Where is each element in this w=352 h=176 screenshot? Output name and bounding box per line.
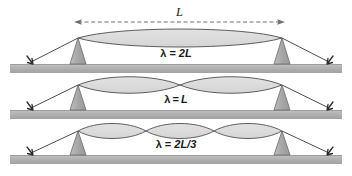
- wavelength-value-1: 2L: [178, 47, 192, 59]
- lambda-symbol-3: λ: [156, 138, 162, 150]
- equals-symbol-1: =: [169, 47, 175, 59]
- wavelength-label-harmonic-3: λ=2L/3: [156, 138, 197, 150]
- standing-wave-figure: L λ=2L: [0, 0, 352, 176]
- lambda-symbol-2: λ: [164, 93, 170, 105]
- figure-canvas: L λ=2L: [0, 0, 352, 176]
- lambda-symbol-1: λ: [160, 47, 166, 59]
- equals-symbol-3: =: [165, 138, 171, 150]
- base-bar: [10, 64, 342, 73]
- base-bar: [10, 110, 342, 119]
- wavelength-value-2: L: [181, 93, 188, 105]
- base-bar: [10, 155, 342, 164]
- wavelength-label-harmonic-2: λ=L: [164, 93, 188, 105]
- equals-symbol-2: =: [172, 93, 178, 105]
- dimension-label-L: L: [175, 5, 183, 19]
- wavelength-value-3: 2L/3: [173, 138, 196, 150]
